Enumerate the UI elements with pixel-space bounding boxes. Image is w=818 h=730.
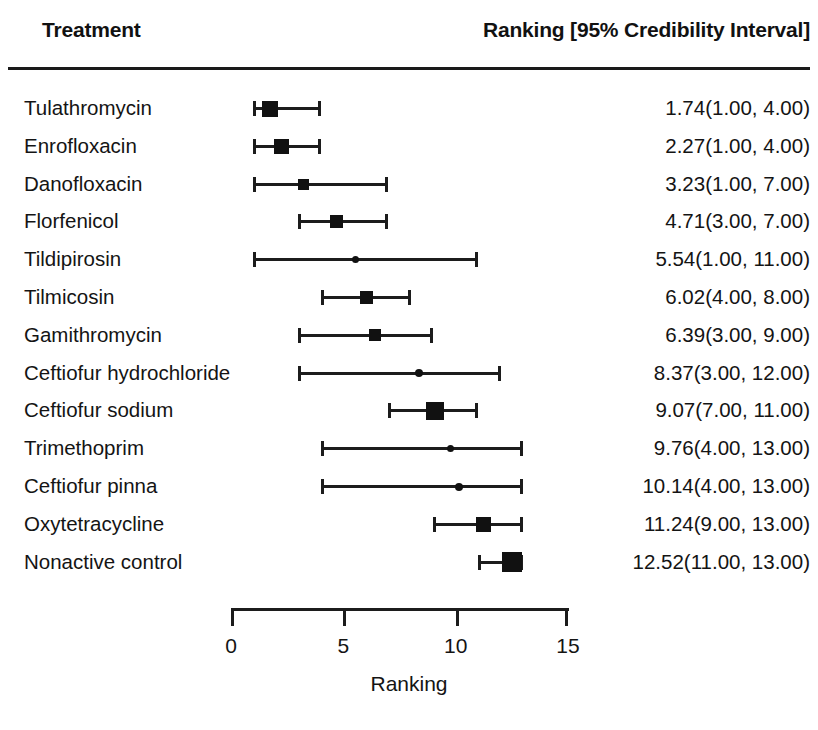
treatment-label: Enrofloxacin [24, 127, 137, 165]
ranking-value: 10.14(4.00, 13.00) [642, 467, 810, 505]
treatment-label: Oxytetracycline [24, 505, 164, 543]
point-estimate-marker [330, 215, 343, 228]
ranking-value: 5.54(1.00, 11.00) [655, 240, 810, 278]
ranking-value: 12.52(11.00, 13.00) [633, 543, 810, 581]
treatment-label: Tilmicosin [24, 278, 114, 316]
treatment-label: Ceftiofur hydrochloride [24, 354, 230, 392]
ci-lower-cap [321, 441, 324, 456]
table-row: Florfenicol4.71(3.00, 7.00) [0, 202, 818, 240]
table-row: Tulathromycin1.74(1.00, 4.00) [0, 89, 818, 127]
ranking-value: 11.24(9.00, 13.00) [644, 505, 810, 543]
treatment-label: Tildipirosin [24, 240, 121, 278]
ranking-value: 9.76(4.00, 13.00) [654, 429, 810, 467]
point-estimate-marker [352, 256, 359, 263]
ci-lower-cap [298, 366, 301, 381]
ci-lower-cap [388, 403, 391, 418]
ci-upper-cap [318, 101, 321, 116]
confidence-interval-line [321, 447, 523, 450]
table-row: Tilmicosin6.02(4.00, 8.00) [0, 278, 818, 316]
ranking-value: 4.71(3.00, 7.00) [665, 202, 810, 240]
ranking-value: 6.39(3.00, 9.00) [665, 316, 810, 354]
ci-lower-cap [253, 101, 256, 116]
axis-tick [565, 608, 568, 626]
axis-tick [343, 608, 346, 626]
table-row: Ceftiofur sodium9.07(7.00, 11.00) [0, 391, 818, 429]
ci-lower-cap [433, 517, 436, 532]
table-row: Nonactive control12.52(11.00, 13.00) [0, 543, 818, 581]
point-estimate-marker [502, 552, 522, 572]
ci-upper-cap [318, 139, 321, 154]
treatment-label: Tulathromycin [24, 89, 152, 127]
ranking-value: 2.27(1.00, 4.00) [665, 127, 810, 165]
table-row: Trimethoprim9.76(4.00, 13.00) [0, 429, 818, 467]
point-estimate-marker [274, 139, 289, 154]
forest-plot: Treatment Ranking [95% Credibility Inter… [0, 0, 818, 730]
point-estimate-marker [415, 369, 423, 377]
ranking-value: 9.07(7.00, 11.00) [655, 391, 810, 429]
treatment-label: Gamithromycin [24, 316, 162, 354]
ci-upper-cap [475, 252, 478, 267]
point-estimate-marker [369, 329, 381, 341]
confidence-interval-line [253, 183, 388, 186]
ci-lower-cap [253, 177, 256, 192]
axis-line [231, 608, 569, 611]
point-estimate-marker [298, 179, 309, 190]
ci-upper-cap [430, 328, 433, 343]
ci-upper-cap [385, 177, 388, 192]
table-row: Ceftiofur hydrochloride8.37(3.00, 12.00) [0, 354, 818, 392]
ranking-column-header: Ranking [95% Credibility Interval] [483, 18, 810, 42]
table-row: Gamithromycin6.39(3.00, 9.00) [0, 316, 818, 354]
confidence-interval-line [298, 334, 433, 337]
ranking-value: 1.74(1.00, 4.00) [665, 89, 810, 127]
ci-upper-cap [475, 403, 478, 418]
point-estimate-marker [262, 101, 278, 117]
point-estimate-marker [455, 483, 463, 491]
ci-upper-cap [520, 441, 523, 456]
point-estimate-marker [476, 517, 491, 532]
confidence-interval-line [253, 258, 478, 261]
ci-upper-cap [520, 517, 523, 532]
ci-upper-cap [520, 479, 523, 494]
table-row: Oxytetracycline11.24(9.00, 13.00) [0, 505, 818, 543]
axis-tick-label: 5 [313, 634, 373, 658]
treatment-label: Trimethoprim [24, 429, 144, 467]
ci-lower-cap [321, 479, 324, 494]
confidence-interval-line [321, 485, 523, 488]
header-divider [8, 67, 810, 70]
confidence-interval-line [298, 372, 500, 375]
axis-tick-label: 15 [538, 634, 598, 658]
ci-upper-cap [408, 290, 411, 305]
ci-lower-cap [321, 290, 324, 305]
axis-tick-label: 10 [426, 634, 486, 658]
ci-lower-cap [253, 252, 256, 267]
treatment-label: Florfenicol [24, 202, 119, 240]
axis-tick-label: 0 [201, 634, 261, 658]
ranking-value: 3.23(1.00, 7.00) [665, 165, 810, 203]
table-row: Tildipirosin5.54(1.00, 11.00) [0, 240, 818, 278]
treatment-label: Ceftiofur sodium [24, 391, 173, 429]
ranking-value: 6.02(4.00, 8.00) [665, 278, 810, 316]
table-row: Danofloxacin3.23(1.00, 7.00) [0, 165, 818, 203]
ci-upper-cap [498, 366, 501, 381]
x-axis: 051015 Ranking [0, 596, 818, 726]
axis-tick [231, 608, 234, 626]
ci-lower-cap [253, 139, 256, 154]
point-estimate-marker [447, 445, 454, 452]
ci-lower-cap [478, 555, 481, 570]
treatment-label: Nonactive control [24, 543, 182, 581]
axis-tick [456, 608, 459, 626]
point-estimate-marker [426, 402, 444, 420]
confidence-interval-line [298, 220, 388, 223]
treatment-label: Danofloxacin [24, 165, 143, 203]
table-row: Ceftiofur pinna10.14(4.00, 13.00) [0, 467, 818, 505]
ci-lower-cap [298, 328, 301, 343]
ci-upper-cap [385, 214, 388, 229]
table-row: Enrofloxacin2.27(1.00, 4.00) [0, 127, 818, 165]
ci-lower-cap [298, 214, 301, 229]
point-estimate-marker [360, 291, 373, 304]
ranking-value: 8.37(3.00, 12.00) [654, 354, 810, 392]
treatment-label: Ceftiofur pinna [24, 467, 157, 505]
axis-title: Ranking [0, 672, 818, 696]
treatment-column-header: Treatment [42, 18, 141, 42]
